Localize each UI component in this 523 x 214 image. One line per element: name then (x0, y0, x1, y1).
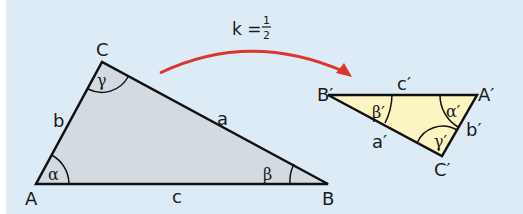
vertex-a-label: A (25, 188, 38, 209)
vertex-a-prime-label: A′ (478, 84, 494, 105)
similarity-diagram: A B C a b c α β γ k = 1 2 B′ A′ C′ c′ a′… (0, 0, 523, 214)
angle-gamma-prime-label: γ′ (434, 132, 448, 151)
angle-alpha-label: α (48, 165, 59, 184)
angle-beta-prime-label: β′ (372, 103, 385, 122)
vertex-b-prime-label: B′ (317, 84, 333, 105)
mapping-arrow (160, 51, 352, 77)
vertex-b-label: B (322, 188, 334, 209)
angle-gamma-label: γ (97, 71, 107, 90)
vertex-c-label: C (96, 39, 109, 60)
vertex-c-prime-label: C′ (434, 159, 451, 180)
scale-factor-label: k = (232, 19, 262, 39)
scale-factor-denominator: 2 (263, 29, 270, 42)
scale-factor-numerator: 1 (263, 14, 270, 27)
side-c-prime-label: c′ (397, 73, 411, 94)
side-b-prime-label: b′ (466, 119, 482, 140)
side-a-prime-label: a′ (372, 131, 387, 152)
side-c-label: c (172, 186, 182, 207)
side-a-label: a (217, 108, 228, 129)
original-triangle (36, 62, 328, 184)
angle-beta-label: β (263, 165, 272, 184)
side-b-label: b (53, 110, 64, 131)
angle-alpha-prime-label: α′ (446, 102, 461, 121)
